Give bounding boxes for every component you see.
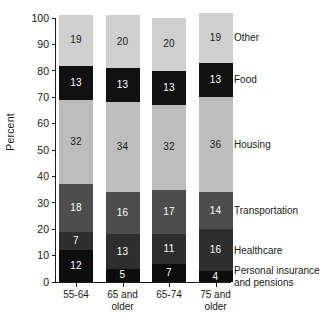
bar-segment-value: 19 xyxy=(70,35,82,45)
x-axis-tick-mark xyxy=(123,283,124,287)
bar-segment[interactable]: 20 xyxy=(152,18,186,71)
legend-item: Food xyxy=(234,74,335,86)
bar-segment-value: 20 xyxy=(117,37,129,47)
bar-segment[interactable]: 20 xyxy=(106,15,140,68)
bar-segment-value: 7 xyxy=(73,236,79,246)
bar-column[interactable]: 12718321319 xyxy=(59,18,93,282)
bar-segment-value: 17 xyxy=(163,207,175,217)
bar-segment-value: 13 xyxy=(117,80,129,90)
legend-item-label: Other xyxy=(234,32,335,44)
y-axis-tick-label: 10 xyxy=(37,250,52,261)
bar-segment-value: 5 xyxy=(120,270,126,280)
bar-column[interactable]: 41614361319 xyxy=(199,18,233,282)
bar-segment-value: 13 xyxy=(163,83,175,93)
legend-item-label: Housing xyxy=(234,139,335,151)
y-axis-tick-label: 30 xyxy=(37,198,52,209)
legend-item-label: and pensions xyxy=(234,277,335,289)
bar-segment[interactable]: 5 xyxy=(106,269,140,282)
bar-segment[interactable]: 11 xyxy=(152,234,186,263)
bar-segment-value: 16 xyxy=(210,245,222,255)
bar-segment[interactable]: 16 xyxy=(106,192,140,234)
bar-segment-value: 16 xyxy=(117,208,129,218)
bar-segment-value: 20 xyxy=(163,39,175,49)
y-axis-tick-label: 40 xyxy=(37,171,52,182)
x-axis-tick-mark xyxy=(216,283,217,287)
bar-segment[interactable]: 19 xyxy=(59,15,93,65)
y-axis-tick-label: 70 xyxy=(37,92,52,103)
bar-segment-value: 36 xyxy=(210,140,222,150)
legend-item: Housing xyxy=(234,139,335,151)
bar-segment-value: 14 xyxy=(210,206,222,216)
bar-segment-value: 13 xyxy=(70,78,82,88)
x-axis-tick-mark xyxy=(76,283,77,287)
y-axis-tick-label: 60 xyxy=(37,118,52,129)
bar-segment[interactable]: 17 xyxy=(152,190,186,235)
bar-segment-value: 11 xyxy=(164,244,175,254)
bar-segment[interactable]: 13 xyxy=(59,66,93,100)
bar-segment[interactable]: 13 xyxy=(152,71,186,105)
bar-segment-value: 7 xyxy=(166,268,172,278)
bar-segment[interactable]: 14 xyxy=(199,192,233,229)
bar-column[interactable]: 51316341320 xyxy=(106,18,140,282)
legend-item: Healthcare xyxy=(234,245,335,257)
bar-segment[interactable]: 19 xyxy=(199,13,233,63)
bar-segment-value: 18 xyxy=(70,203,82,213)
y-axis-tick-label: 80 xyxy=(37,66,52,77)
bar-segment[interactable]: 32 xyxy=(59,100,93,184)
bar-segment-value: 13 xyxy=(117,247,129,257)
x-axis-label-line: older xyxy=(186,301,246,313)
bar-segment-value: 19 xyxy=(210,33,222,43)
bar-segment-value: 32 xyxy=(70,137,82,147)
legend-item-label: Food xyxy=(234,74,335,86)
bar-segment-value: 13 xyxy=(210,75,222,85)
bar-segment[interactable]: 18 xyxy=(59,184,93,232)
bar-segment-value: 32 xyxy=(163,142,175,152)
bar-segment-value: 34 xyxy=(117,142,129,152)
bar-segment[interactable]: 12 xyxy=(59,250,93,282)
x-axis-line xyxy=(55,282,231,283)
legend-item: Other xyxy=(234,32,335,44)
x-axis-label: 75 andolder xyxy=(186,289,246,312)
y-axis-tick-label: 90 xyxy=(37,39,52,50)
bar-segment[interactable]: 4 xyxy=(199,271,233,282)
bar-segment[interactable]: 7 xyxy=(59,232,93,250)
legend-item-label: Personal insurance xyxy=(234,265,335,277)
bar-segment[interactable]: 16 xyxy=(199,229,233,271)
x-axis-tick-mark xyxy=(169,283,170,287)
x-axis-label-line: older xyxy=(93,301,153,313)
stacked-bar-chart: Percent 0102030405060708090100 127183213… xyxy=(0,0,335,324)
bar-segment[interactable]: 13 xyxy=(199,63,233,97)
y-axis-tick-label: 100 xyxy=(31,13,52,24)
y-axis-tick-label: 50 xyxy=(37,145,52,156)
legend-item: Personal insuranceand pensions xyxy=(234,265,335,288)
legend-item-label: Healthcare xyxy=(234,245,335,257)
y-axis-ticks: 0102030405060708090100 xyxy=(0,0,56,324)
bar-segment[interactable]: 7 xyxy=(152,264,186,282)
bar-segment[interactable]: 36 xyxy=(199,97,233,192)
y-axis-tick-label: 0 xyxy=(43,277,52,288)
legend-item-label: Transportation xyxy=(234,205,335,217)
y-axis-tick-label: 20 xyxy=(37,224,52,235)
bar-segment[interactable]: 32 xyxy=(152,105,186,189)
bar-segment[interactable]: 13 xyxy=(106,234,140,268)
legend-item: Transportation xyxy=(234,205,335,217)
bar-segment-value: 4 xyxy=(213,272,219,282)
bar-segment[interactable]: 34 xyxy=(106,102,140,192)
chart-legend: OtherFoodHousingTransportationHealthcare… xyxy=(234,0,335,324)
x-axis-label-line: 75 and xyxy=(186,289,246,301)
bar-segment[interactable]: 13 xyxy=(106,68,140,102)
plot-area: 1271832131951316341320711173213204161436… xyxy=(56,18,230,282)
bar-column[interactable]: 71117321320 xyxy=(152,18,186,282)
bar-segment-value: 12 xyxy=(70,261,82,271)
